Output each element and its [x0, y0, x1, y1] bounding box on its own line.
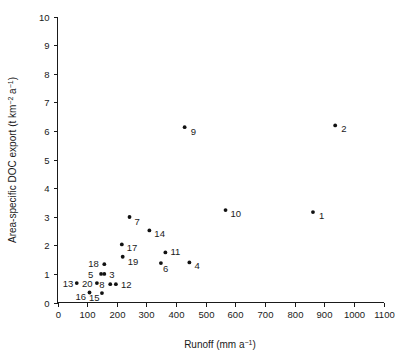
- point-label-2: 2: [341, 123, 346, 134]
- scatter-plot-figure: 012345678910 010020030040050060070080090…: [0, 0, 409, 364]
- y-tick-label-5: 5: [44, 155, 49, 166]
- data-point-13[interactable]: 13: [63, 278, 79, 289]
- y-axis: 012345678910: [39, 12, 58, 309]
- marker-dot: [333, 124, 337, 128]
- marker-dot: [311, 210, 315, 214]
- marker-dot: [114, 282, 118, 286]
- x-tick-label-1000: 1000: [344, 309, 365, 320]
- x-tick-label-100: 100: [80, 309, 96, 320]
- data-point-14[interactable]: 14: [147, 228, 164, 239]
- data-point-20[interactable]: 20: [82, 278, 99, 289]
- point-label-9: 9: [191, 126, 196, 137]
- x-tick-label-800: 800: [288, 309, 304, 320]
- y-tick-label-6: 6: [44, 126, 49, 137]
- marker-dot: [183, 125, 187, 129]
- data-point-19[interactable]: 19: [121, 255, 138, 267]
- data-point-11[interactable]: 11: [163, 246, 180, 257]
- x-tick-label-700: 700: [258, 309, 274, 320]
- data-point-12[interactable]: 12: [114, 279, 131, 290]
- data-point-17[interactable]: 17: [120, 242, 137, 253]
- x-tick-label-500: 500: [199, 309, 215, 320]
- marker-dot: [187, 261, 191, 265]
- y-tick-label-3: 3: [44, 212, 49, 223]
- point-label-8: 8: [99, 279, 104, 290]
- point-label-13: 13: [63, 278, 74, 289]
- y-tick-label-7: 7: [44, 97, 49, 108]
- marker-dot: [95, 281, 99, 285]
- y-tick-label-2: 2: [44, 240, 49, 251]
- data-point-4[interactable]: 4: [187, 260, 199, 271]
- point-label-14: 14: [154, 228, 165, 239]
- data-point-6[interactable]: 6: [159, 261, 168, 274]
- point-label-17: 17: [127, 242, 138, 253]
- y-title-base: Area-specific DOC export (t km: [7, 105, 18, 243]
- y-title-exponent-1: −2: [7, 97, 14, 105]
- marker-dot: [147, 229, 151, 233]
- point-label-3: 3: [109, 269, 114, 280]
- data-points-layer: 1234567891011121314151617181920: [63, 123, 347, 303]
- y-tick-label-10: 10: [39, 12, 50, 23]
- point-label-19: 19: [128, 256, 139, 267]
- x-axis-title: Runoff (mm a−1): [184, 339, 256, 351]
- point-label-18: 18: [88, 258, 99, 269]
- marker-dot: [120, 243, 124, 247]
- point-label-1: 1: [319, 210, 324, 221]
- point-label-20: 20: [82, 278, 93, 289]
- marker-dot: [102, 262, 106, 266]
- marker-dot: [224, 208, 228, 212]
- y-tick-label-0: 0: [44, 298, 49, 309]
- x-tick-label-400: 400: [169, 309, 185, 320]
- marker-dot: [99, 272, 103, 276]
- point-label-11: 11: [170, 246, 180, 257]
- marker-dot: [88, 291, 92, 295]
- marker-dot: [102, 272, 106, 276]
- x-tick-label-200: 200: [110, 309, 126, 320]
- point-label-4: 4: [194, 260, 199, 271]
- point-label-6: 6: [163, 263, 168, 274]
- y-axis-title: Area-specific DOC export (t km−2 a−1): [7, 77, 19, 243]
- data-point-8[interactable]: 8: [99, 279, 112, 290]
- y-tick-label-9: 9: [44, 40, 49, 51]
- x-axis-ticks: 010020030040050060070080090010001100: [56, 303, 395, 320]
- x-title-exponent: −1: [245, 339, 253, 346]
- x-tick-label-0: 0: [56, 309, 61, 320]
- x-tick-label-900: 900: [317, 309, 333, 320]
- marker-dot: [163, 251, 167, 255]
- marker-dot: [128, 215, 132, 219]
- y-title-exponent-2: −1: [7, 80, 14, 88]
- y-title-tail: ): [7, 77, 18, 80]
- point-label-12: 12: [121, 279, 132, 290]
- point-label-7: 7: [135, 216, 140, 227]
- marker-dot: [108, 282, 112, 286]
- data-point-10[interactable]: 10: [224, 208, 241, 219]
- point-label-10: 10: [231, 208, 242, 219]
- x-tick-label-600: 600: [228, 309, 244, 320]
- data-point-18[interactable]: 18: [88, 258, 106, 269]
- y-axis-ticks: 012345678910: [39, 12, 58, 309]
- x-title-base: Runoff (mm a: [184, 339, 245, 350]
- data-point-9[interactable]: 9: [183, 125, 196, 137]
- x-axis: 010020030040050060070080090010001100: [56, 303, 395, 320]
- chart-canvas: 012345678910 010020030040050060070080090…: [0, 0, 409, 364]
- data-point-7[interactable]: 7: [128, 215, 140, 227]
- marker-dot: [75, 281, 79, 285]
- y-tick-label-8: 8: [44, 69, 49, 80]
- y-tick-label-1: 1: [44, 269, 49, 280]
- x-tick-label-1100: 1100: [374, 309, 394, 320]
- data-point-1[interactable]: 1: [311, 210, 324, 221]
- point-label-16: 16: [76, 291, 87, 302]
- y-tick-label-4: 4: [44, 183, 49, 194]
- marker-dot: [121, 255, 125, 259]
- data-point-2[interactable]: 2: [333, 123, 346, 134]
- x-title-tail: ): [253, 339, 256, 350]
- x-tick-label-300: 300: [139, 309, 155, 320]
- marker-dot: [100, 291, 104, 295]
